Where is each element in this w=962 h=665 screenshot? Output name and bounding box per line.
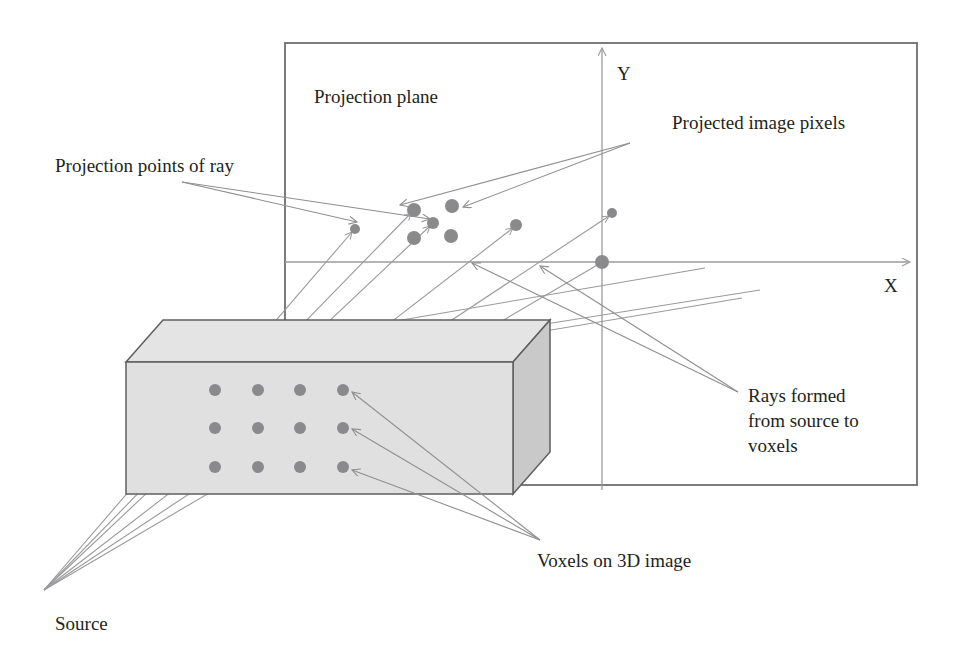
projection-plane-label: Projection plane [314, 86, 438, 107]
projection-points-of-ray-label: Projection points of ray [55, 155, 234, 176]
box-front-face [126, 362, 513, 494]
voxel-dot [209, 422, 221, 434]
projection-point [510, 219, 522, 231]
projection-point [607, 208, 617, 218]
projection-point [350, 224, 360, 234]
projection-point [407, 231, 421, 245]
source-label: Source [55, 613, 108, 634]
box-top-face [126, 320, 550, 362]
figure-root: X Y [0, 0, 962, 665]
projected-image-pixels-label: Projected image pixels [672, 112, 845, 133]
voxel-dot [337, 384, 349, 396]
rays-formed-label-line1: Rays formed [748, 385, 846, 406]
x-axis-label: X [884, 275, 898, 296]
voxel-dot [294, 422, 306, 434]
projection-point [445, 199, 459, 213]
rays-formed-label-line3: voxels [748, 435, 798, 456]
y-axis-label: Y [617, 63, 631, 84]
projection-point [444, 229, 458, 243]
voxel-dot [252, 422, 264, 434]
voxel-dot [337, 422, 349, 434]
projection-point [407, 203, 421, 217]
diagram-canvas: X Y [0, 0, 962, 665]
voxel-dot [294, 384, 306, 396]
voxel-dot [252, 461, 264, 473]
voxel-dot [337, 461, 349, 473]
rays-formed-label-line2: from source to [748, 410, 859, 431]
projection-point-origin [595, 255, 609, 269]
voxel-dot [252, 384, 264, 396]
voxel-dot [294, 461, 306, 473]
voxel-dot [209, 461, 221, 473]
voxels-on-3d-image-label: Voxels on 3D image [537, 550, 691, 571]
voxel-dot [209, 384, 221, 396]
